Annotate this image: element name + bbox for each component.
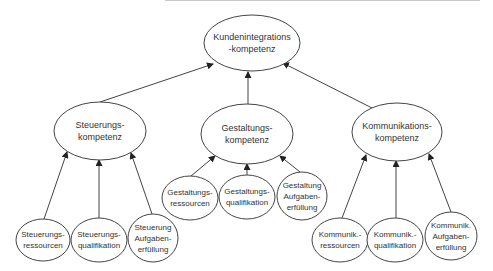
node-label-line: qualifikation <box>78 241 120 250</box>
node-label-line: qualifikation <box>226 198 268 207</box>
node-steuerung: Steuerungs-kompetenz <box>54 102 146 160</box>
leaf-ellipse <box>162 176 218 220</box>
node-label-line: ressourcen <box>23 241 63 250</box>
node-label-line: ressourcen <box>320 241 360 250</box>
node-ko-res: Kommunik.-ressourcen <box>312 218 368 262</box>
node-label-line: Gestaltungs- <box>167 188 213 197</box>
leaf-ellipse <box>312 218 368 262</box>
level2-ellipse <box>54 102 146 160</box>
node-gestaltung: Gestaltungs-kompetenz <box>201 104 293 164</box>
leaf-ellipse <box>367 218 423 262</box>
edge-arrow-steuerung-to-root <box>100 64 213 102</box>
node-label-line: Steuerungs- <box>75 120 124 130</box>
level2-ellipse <box>352 103 442 161</box>
node-label-line: kompetenz <box>78 132 123 142</box>
node-label-line: Gestaltungs- <box>224 187 270 196</box>
node-label-line: Steuerungs- <box>21 230 65 239</box>
node-label-line: Kommunik.- <box>319 230 362 239</box>
node-label-line: -kompetenz <box>228 44 276 54</box>
node-label-line: Aufgaben- <box>433 232 470 241</box>
node-ge-res: Gestaltungs-ressourcen <box>162 176 218 220</box>
node-ko-qual: Kommunik.-qualifikation <box>367 218 423 262</box>
node-label-line: Kundenintegrations <box>213 32 291 42</box>
edge-arrow-ko-auf-to-kommunikation <box>429 154 451 212</box>
node-label-line: Steuerung <box>135 223 172 232</box>
node-label-line: Kommunikations- <box>362 121 432 131</box>
node-label-line: erfüllung <box>436 243 467 252</box>
node-label-line: ressourcen <box>170 199 210 208</box>
node-st-res: Steuerungs-ressourcen <box>16 219 70 261</box>
nodes: Kundenintegrations-kompetenzSteuerungs-k… <box>16 15 477 262</box>
node-label-line: erfüllung <box>287 203 318 212</box>
node-label-line: erfüllung <box>138 245 169 254</box>
competency-hierarchy-diagram: Kundenintegrations-kompetenzSteuerungs-k… <box>0 0 493 271</box>
node-label-line: qualifikation <box>374 241 416 250</box>
node-ko-auf: Kommunik.Aufgaben-erfüllung <box>425 212 477 260</box>
node-label-line: Aufgaben- <box>135 234 172 243</box>
edge-arrow-ko-res-to-kommunikation <box>342 155 366 218</box>
node-label-line: Kommunik. <box>431 221 471 230</box>
node-ge-qual: Gestaltungs-qualifikation <box>219 175 275 219</box>
node-root: Kundenintegrations-kompetenz <box>204 15 300 71</box>
node-label-line: Kommunik.- <box>374 230 417 239</box>
node-label-line: Gestaltung <box>283 181 322 190</box>
node-label-line: Gestaltungs- <box>221 123 272 133</box>
node-st-qual: Steuerungs-qualifikation <box>71 218 127 262</box>
node-ge-auf: GestaltungAufgaben-erfüllung <box>277 172 327 220</box>
edge-arrow-st-auf-to-steuerung <box>131 153 152 214</box>
level2-ellipse <box>201 104 293 164</box>
root-ellipse <box>204 15 300 71</box>
node-label-line: kompetenz <box>225 135 270 145</box>
node-label-line: kompetenz <box>375 133 420 143</box>
leaf-ellipse <box>71 218 127 262</box>
leaf-ellipse <box>219 175 275 219</box>
edge-arrow-ge-res-to-gestaltung <box>191 156 215 176</box>
node-st-auf: SteuerungAufgaben-erfüllung <box>128 214 178 262</box>
edge-arrow-st-res-to-steuerung <box>44 152 67 219</box>
edge-arrow-kommunikation-to-root <box>283 63 372 108</box>
node-label-line: Aufgaben- <box>284 192 321 201</box>
node-kommunikation: Kommunikations-kompetenz <box>352 103 442 161</box>
node-label-line: Steuerungs- <box>77 230 121 239</box>
leaf-ellipse <box>16 219 70 261</box>
edge-arrow-ge-auf-to-gestaltung <box>280 156 300 172</box>
